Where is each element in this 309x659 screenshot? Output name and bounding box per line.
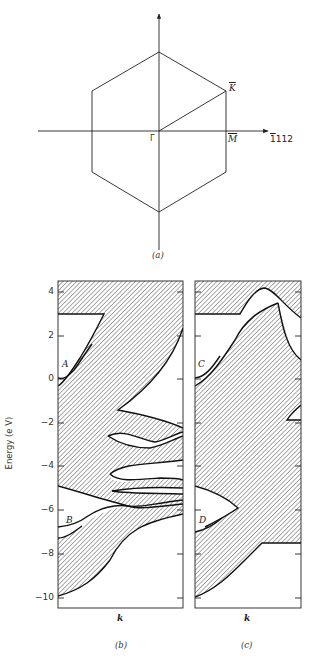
ytick-neg2: −2 bbox=[30, 417, 54, 427]
region-label-b: B bbox=[66, 515, 73, 525]
direction-label: 1112 bbox=[270, 134, 293, 144]
ytick-4: 4 bbox=[34, 286, 54, 296]
ytick-neg10: −10 bbox=[26, 592, 54, 602]
gamma-label: Γ bbox=[150, 134, 154, 143]
region-label-d: D bbox=[199, 515, 206, 525]
ytick-neg4: −4 bbox=[30, 460, 54, 470]
panel-c bbox=[195, 281, 301, 608]
panel-b bbox=[58, 281, 183, 608]
region-label-a: A bbox=[62, 359, 69, 369]
ytick-neg8: −8 bbox=[30, 548, 54, 558]
m-point-label: M bbox=[228, 134, 237, 144]
direction-rest: 112 bbox=[276, 134, 293, 144]
region-label-c: C bbox=[198, 359, 205, 369]
caption-c: (c) bbox=[241, 640, 252, 650]
xlabel-c: k bbox=[244, 613, 250, 623]
brillouin-zone-diagram bbox=[38, 14, 268, 250]
caption-a: (a) bbox=[152, 250, 164, 260]
ytick-neg6: −6 bbox=[30, 504, 54, 514]
caption-b: (b) bbox=[115, 640, 127, 650]
k-point-label: K bbox=[229, 83, 236, 93]
gamma-k-line bbox=[159, 91, 226, 131]
y-axis-label: Energy (e V) bbox=[4, 408, 14, 478]
xlabel-b: k bbox=[117, 613, 123, 623]
ytick-2: 2 bbox=[34, 330, 54, 340]
ytick-0: 0 bbox=[34, 373, 54, 383]
